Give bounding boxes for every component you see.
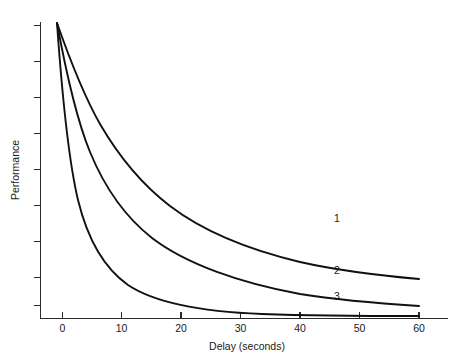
curve-series-3: [57, 23, 419, 316]
x-tick-label-10: 10: [116, 322, 128, 334]
axes-group: [41, 22, 449, 319]
series-label-2: 2: [334, 264, 340, 276]
data-curves: [57, 23, 419, 316]
curve-series-1: [57, 23, 419, 279]
series-label-1: 1: [334, 212, 340, 224]
x-tick-label-60: 60: [413, 322, 425, 334]
y-axis-title: Performance: [9, 140, 21, 200]
x-axis-title: Delay (seconds): [209, 340, 285, 352]
x-tick-label-20: 20: [175, 322, 187, 334]
x-axis-tick-labels: 0 10 20 30 40 50 60: [60, 322, 425, 334]
x-tick-label-40: 40: [294, 322, 306, 334]
series-labels: 1 2 3: [334, 212, 340, 302]
x-tick-label-0: 0: [60, 322, 66, 334]
series-label-3: 3: [334, 290, 340, 302]
performance-decay-chart: 0 10 20 30 40 50 60 1 2 3 Delay (seconds…: [0, 0, 455, 358]
x-tick-label-30: 30: [235, 322, 247, 334]
curve-series-2: [57, 23, 419, 306]
x-tick-label-50: 50: [354, 322, 366, 334]
chart-figure: 0 10 20 30 40 50 60 1 2 3 Delay (seconds…: [0, 0, 455, 358]
y-axis-ticks: [34, 26, 41, 306]
